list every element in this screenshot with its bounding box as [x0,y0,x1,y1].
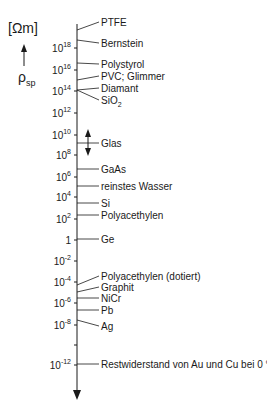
resistivity-scale: 10181016101410121010108106104102110-210-… [0,0,267,416]
material-label: GaAs [101,164,126,175]
material-label: Restwiderstand von Au und Cu bei 0 °K [101,359,267,370]
material-label: Glas [101,138,122,149]
leader-line [77,90,99,100]
leader-line [77,276,99,285]
leader-line [77,287,99,292]
material-label: Pb [101,305,114,316]
material-label: Ag [101,321,113,332]
tick-label: 10-4 [54,275,71,288]
leader-line [77,22,99,30]
leader-line [77,63,99,64]
tick-label: 1014 [52,84,71,97]
leader-line [77,320,99,326]
tick-label: 1010 [52,128,71,141]
material-label: Polystyrol [101,59,144,70]
tick-label: 106 [56,170,71,183]
tick-label: 10-8 [54,318,71,331]
material-label: Bernstein [101,38,143,49]
material-label: Si [101,198,110,209]
tick-label: 102 [56,212,71,225]
material-labels: PTFEBernsteinPolystyrolPVC; GlimmerDiama… [77,17,267,370]
glas-range-arrows-icon [85,129,91,156]
tick-label: 10-2 [54,254,71,267]
material-label: Ge [101,234,115,245]
material-label: PVC; Glimmer [101,71,166,82]
leader-line [77,40,99,43]
tick-label: 1016 [52,63,71,76]
leader-line [77,88,99,90]
tick-label: 108 [56,148,71,161]
axis-arrow-down-icon [73,390,81,400]
material-label: PTFE [101,17,127,28]
tick-label: 10-12 [50,358,71,371]
material-label: reinstes Wasser [101,181,173,192]
tick-label: 1018 [52,41,71,54]
leader-line [77,76,99,80]
tick-label: 1 [65,235,71,246]
vertical-axis [73,24,81,400]
tick-label: 1012 [52,106,71,119]
tick-label: 104 [56,190,71,203]
material-label: Polyacethylen (dotiert) [101,271,201,282]
material-label: NiCr [101,293,122,304]
axis-ticks: 10181016101410121010108106104102110-210-… [50,41,77,371]
material-label: Diamant [101,83,138,94]
material-label: Polyacethylen [101,210,163,221]
material-label: Graphit [101,282,134,293]
material-label: SiO2 [101,95,122,108]
unit-arrow-up-icon [21,44,27,66]
tick-label: 10-6 [54,296,71,309]
